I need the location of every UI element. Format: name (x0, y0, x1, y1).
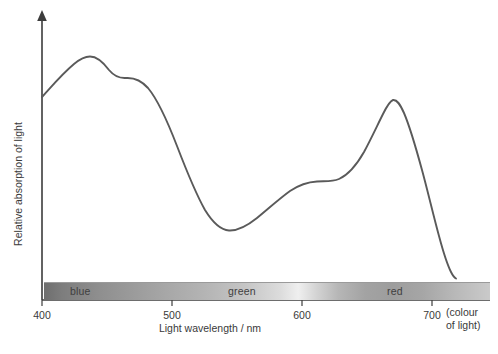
colour-of-light-note-line2: of light) (446, 319, 480, 332)
spectrum-band-label-blue: blue (70, 285, 91, 297)
spectrum-colour-bar (44, 282, 490, 300)
x-tick-label-500: 500 (152, 309, 192, 321)
y-axis-title: Relative absorption of light (12, 104, 24, 264)
colour-of-light-note: (colour of light) (446, 306, 480, 331)
spectrum-band-label-red: red (387, 285, 403, 297)
x-axis-title: Light wavelength / nm (0, 322, 420, 334)
x-axis-ticks (42, 300, 432, 306)
y-axis-arrowhead (37, 10, 47, 21)
spectrum-band-label-green: green (228, 285, 256, 297)
x-tick-label-600: 600 (282, 309, 322, 321)
absorption-spectrum-figure: blue green red 400 500 600 700 Light wav… (0, 0, 498, 354)
absorption-curve (42, 57, 456, 279)
colour-of-light-note-line1: (colour (446, 306, 480, 319)
x-tick-label-400: 400 (22, 309, 62, 321)
chart-plot-area (0, 0, 498, 354)
